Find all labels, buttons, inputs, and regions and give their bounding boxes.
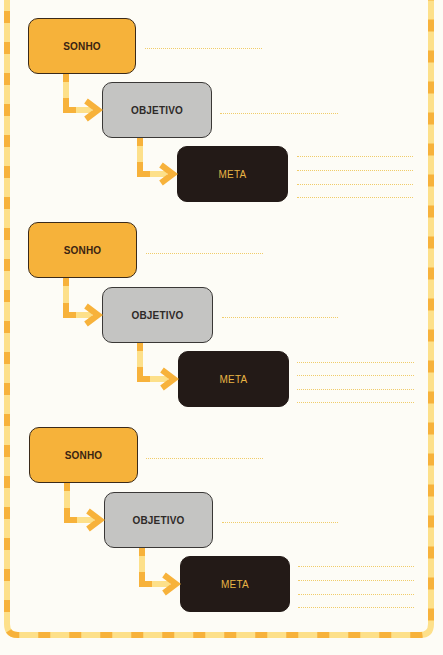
- sonho-label: SONHO: [63, 41, 101, 52]
- arrow-connector-icon: [138, 548, 182, 596]
- arrow-connector-icon: [63, 483, 106, 532]
- meta-writing-line[interactable]: [298, 566, 414, 567]
- sonho-box: SONHO: [28, 18, 136, 74]
- sonho-writing-line[interactable]: [146, 458, 263, 459]
- objetivo-box: OBJETIVO: [102, 82, 212, 138]
- sonho-box: SONHO: [29, 427, 138, 483]
- objetivo-writing-line[interactable]: [222, 317, 338, 318]
- meta-label: META: [219, 169, 247, 180]
- objetivo-label: OBJETIVO: [132, 515, 184, 526]
- meta-writing-line[interactable]: [297, 197, 413, 198]
- meta-box: META: [177, 146, 288, 202]
- meta-writing-line[interactable]: [297, 170, 413, 171]
- sonho-box: SONHO: [28, 222, 137, 278]
- arrow-connector-icon: [136, 343, 180, 391]
- arrow-connector-icon: [62, 278, 104, 327]
- sonho-label: SONHO: [64, 245, 102, 256]
- meta-writing-line[interactable]: [297, 156, 413, 157]
- objetivo-writing-line[interactable]: [222, 522, 338, 523]
- meta-label: META: [220, 374, 248, 385]
- objetivo-box: OBJETIVO: [102, 287, 213, 343]
- meta-box: META: [180, 556, 290, 612]
- meta-box: META: [178, 351, 289, 407]
- meta-writing-line[interactable]: [298, 580, 414, 581]
- sonho-label: SONHO: [65, 450, 103, 461]
- meta-label: META: [221, 579, 249, 590]
- meta-writing-line[interactable]: [297, 389, 414, 390]
- arrow-connector-icon: [62, 74, 104, 122]
- meta-writing-line[interactable]: [297, 362, 414, 363]
- objetivo-label: OBJETIVO: [131, 310, 183, 321]
- sonho-writing-line[interactable]: [145, 48, 262, 49]
- meta-writing-line[interactable]: [297, 402, 414, 403]
- objetivo-label: OBJETIVO: [131, 105, 183, 116]
- meta-writing-line[interactable]: [298, 607, 414, 608]
- arrow-connector-icon: [136, 138, 179, 186]
- meta-writing-line[interactable]: [297, 375, 414, 376]
- objetivo-box: OBJETIVO: [104, 492, 213, 548]
- meta-writing-line[interactable]: [298, 594, 414, 595]
- sonho-writing-line[interactable]: [146, 253, 263, 254]
- meta-writing-line[interactable]: [297, 184, 413, 185]
- objetivo-writing-line[interactable]: [220, 113, 338, 114]
